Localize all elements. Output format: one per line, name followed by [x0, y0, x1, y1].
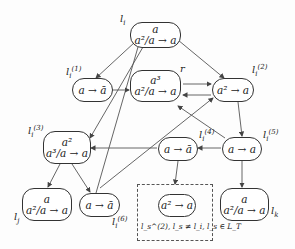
node-l-k-top: a — [241, 194, 247, 205]
label-l-i2-sup: (2) — [257, 63, 267, 71]
label-l-i-sub: i — [123, 19, 125, 27]
label-l-i: li — [120, 14, 125, 28]
node-l-i3: a² a³/a → a — [43, 131, 91, 164]
label-l-i4-sup: (4) — [204, 128, 214, 136]
label-l-k: lk — [271, 206, 278, 220]
node-l-j-top: a — [44, 194, 50, 205]
node-l-i: a a²/a → a — [130, 22, 181, 48]
label-l-k-sub: k — [274, 211, 278, 219]
node-l-j-bottom: a²/a → a — [26, 205, 68, 216]
node-l-i2: a² → a — [212, 78, 254, 102]
edge-li4-ls2 — [175, 161, 178, 184]
node-r: a³ a²/a → a — [130, 70, 181, 102]
node-l-s2: a² → a — [158, 194, 196, 217]
label-l-i1-sup: (1) — [71, 65, 81, 73]
label-l-i5-sup: (5) — [268, 128, 278, 136]
node-l-i4: a → ā — [158, 137, 198, 161]
node-l-i6-bottom: a → ā — [86, 200, 114, 211]
node-l-i1: a → ā — [72, 78, 113, 102]
node-l-i2-bottom: a² → a — [217, 85, 249, 96]
node-l-i1-bottom: a → ā — [79, 85, 107, 96]
label-l-i2: li(2) — [252, 62, 267, 79]
node-l-k: a a²/a → a — [220, 188, 269, 221]
diagram-canvas: a a²/a → a li a → ā li(1) a³ a²/a → a r … — [0, 0, 295, 249]
edge-li-li6 — [96, 47, 138, 193]
node-l-i5: a → a — [222, 137, 262, 161]
dashed-group-caption: l_s^(2), l_s ≠ l_i, l_s ∈ L_T — [141, 222, 241, 231]
node-r-bottom: a²/a → a — [135, 86, 177, 97]
node-l-j: a a²/a → a — [22, 188, 72, 221]
node-l-i5-bottom: a → a — [228, 144, 256, 155]
label-l-i1: li(1) — [66, 64, 81, 81]
edge-li3-lj — [48, 164, 60, 187]
label-l-i3: li(3) — [28, 123, 43, 140]
node-l-i3-top: a² — [62, 137, 72, 148]
node-l-i3-bottom: a³/a → a — [46, 148, 88, 159]
node-l-i-bottom: a²/a → a — [135, 35, 177, 46]
label-l-i6-sup: (6) — [117, 215, 127, 223]
edge-li-li1 — [96, 42, 135, 78]
node-l-s2-bottom: a² → a — [161, 200, 193, 211]
label-l-j: lj — [14, 212, 19, 226]
label-l-i6: li(6) — [112, 214, 127, 231]
label-l-i5: li(5) — [263, 127, 278, 144]
edge-li3-li6 — [72, 164, 90, 192]
label-l-i3-sup: (3) — [33, 124, 43, 132]
label-l-i4: li(4) — [199, 127, 214, 144]
edge-li2-li5 — [238, 102, 242, 136]
label-r: r — [180, 64, 185, 74]
node-l-i4-bottom: a → ā — [164, 144, 192, 155]
node-l-k-bottom: a²/a → a — [224, 205, 266, 216]
label-l-j-sub: j — [17, 217, 19, 225]
